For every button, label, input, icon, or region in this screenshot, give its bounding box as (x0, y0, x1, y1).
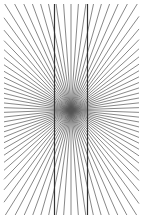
illusion-canvas (0, 0, 143, 219)
hering-illusion-figure (0, 0, 143, 219)
